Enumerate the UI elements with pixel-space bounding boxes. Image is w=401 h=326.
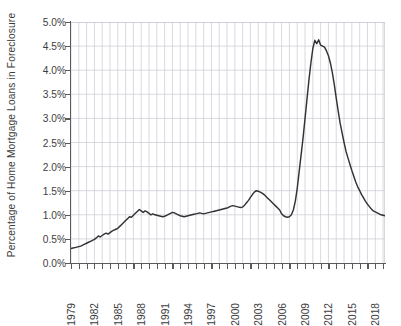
x-tick-label: 2009 (300, 303, 311, 326)
x-tick-label: 2003 (253, 303, 264, 326)
x-tick-label: 2000 (229, 303, 240, 326)
y-tick-label: 4.5% (43, 41, 66, 52)
y-tick-mark (65, 22, 71, 23)
y-tick-mark (65, 215, 71, 216)
y-tick-label: 4.0% (43, 65, 66, 76)
y-tick-label: 1.5% (43, 185, 66, 196)
plot-area (71, 22, 385, 263)
y-tick-label: 3.0% (43, 113, 66, 124)
y-tick-mark (65, 70, 71, 71)
y-tick-mark (65, 94, 71, 95)
y-tick-mark (65, 167, 71, 168)
y-tick-label: 2.5% (43, 137, 66, 148)
x-tick-label: 1988 (136, 303, 147, 326)
y-tick-label: 1.0% (43, 209, 66, 220)
x-tick-label: 1994 (183, 303, 194, 326)
x-tick-label: 1982 (89, 303, 100, 326)
y-tick-label: 5.0% (43, 17, 66, 28)
x-tick-label: 1997 (206, 303, 217, 326)
y-tick-label: 0.0% (43, 258, 66, 269)
y-axis-tick-labels: 0.0%0.5%1.0%1.5%2.0%2.5%3.0%3.5%4.0%4.5%… (22, 0, 70, 290)
x-tick-label: 2006 (276, 303, 287, 326)
x-tick-label: 2015 (346, 303, 357, 326)
y-tick-mark (65, 46, 71, 47)
y-tick-mark (65, 191, 71, 192)
data-series-line (71, 22, 385, 263)
y-tick-mark (65, 118, 71, 119)
y-tick-mark (65, 143, 71, 144)
y-tick-label: 0.5% (43, 233, 66, 244)
x-tick-label: 1991 (159, 303, 170, 326)
y-tick-label: 2.0% (43, 161, 66, 172)
x-tick-label: 1985 (112, 303, 123, 326)
x-axis-tick-labels: 1979198219851988199119941997200020032006… (0, 268, 401, 307)
x-tick-label: 2012 (323, 303, 334, 326)
y-tick-label: 3.5% (43, 89, 66, 100)
y-tick-mark (65, 239, 71, 240)
x-tick-label: 2018 (370, 303, 381, 326)
y-tick-mark (65, 263, 71, 264)
y-axis-title: Percentage of Home Mortgage Loans in For… (6, 13, 17, 257)
y-axis-title-container: Percentage of Home Mortgage Loans in For… (0, 0, 22, 270)
x-tick-label: 1979 (66, 303, 77, 326)
